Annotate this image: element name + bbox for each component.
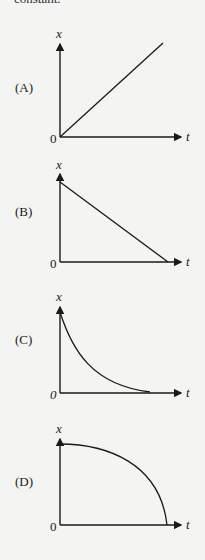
curve-d <box>60 444 167 525</box>
x-axis-label: t <box>186 385 190 400</box>
graph-c: x t 0 (C) <box>15 289 190 402</box>
x-axis-label: t <box>186 517 190 532</box>
option-label-c: (C) <box>15 332 32 347</box>
graph-a: x t 0 (A) <box>15 26 190 146</box>
graph-options: x t 0 (A) x t 0 (B) x t 0 (C) x t 0 (D) <box>0 0 205 560</box>
origin-label: 0 <box>50 519 57 534</box>
y-axis-label: x <box>55 421 62 436</box>
option-label-d: (D) <box>15 474 33 489</box>
origin-label: 0 <box>50 131 57 146</box>
curve-a <box>60 43 163 137</box>
y-axis-label: x <box>55 26 62 41</box>
graph-b: x t 0 (B) <box>15 157 190 271</box>
y-axis-label: x <box>55 157 62 172</box>
curve-b <box>60 182 168 262</box>
option-label-b: (B) <box>15 204 32 219</box>
option-label-a: (A) <box>15 80 33 95</box>
origin-label: 0 <box>50 387 57 402</box>
origin-label: 0 <box>50 256 57 271</box>
x-axis-label: t <box>186 254 190 269</box>
graph-d: x t 0 (D) <box>15 421 190 534</box>
x-axis-label: t <box>186 129 190 144</box>
y-axis-label: x <box>55 289 62 304</box>
curve-c <box>60 312 150 392</box>
